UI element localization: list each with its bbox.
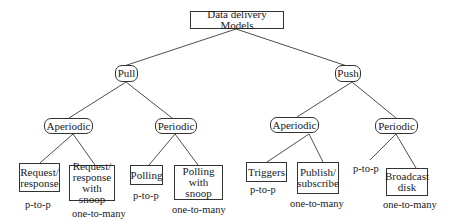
annotation-request-response-snoop: one-to-many bbox=[72, 208, 126, 219]
node-polling: Polling bbox=[130, 165, 163, 185]
node-push-periodic: Periodic bbox=[375, 118, 418, 134]
node-triggers: Triggers bbox=[246, 162, 287, 182]
annotation-publish-subscribe: one-to-many bbox=[290, 198, 344, 209]
node-broadcast-disk: Broadcast disk bbox=[386, 168, 428, 196]
annotation-triggers: p-to-p bbox=[250, 184, 276, 195]
node-push-aperiodic: Aperiodic bbox=[270, 117, 319, 133]
node-publish-subscribe: Publish/ subscribe bbox=[297, 162, 339, 194]
annotation-push-periodic-p2p: p-to-p bbox=[353, 163, 379, 174]
annotation-request-response: p-to-p bbox=[25, 199, 51, 210]
annotation-polling-snoop: one-to-many bbox=[172, 204, 226, 215]
data-delivery-models-diagram: Data delivery Models Pull Push Aperiodic… bbox=[0, 0, 455, 224]
node-polling-with-snoop: Polling with snoop bbox=[174, 165, 223, 200]
node-request-response-with-snoop: Request/ response with snoop bbox=[69, 165, 115, 201]
node-pull: Pull bbox=[115, 65, 138, 82]
node-push: Push bbox=[335, 65, 361, 82]
node-data-delivery-models: Data delivery Models bbox=[190, 11, 284, 29]
annotation-broadcast-disk: one-to-many bbox=[383, 199, 437, 210]
node-pull-aperiodic: Aperiodic bbox=[44, 118, 93, 134]
annotation-polling: p-to-p bbox=[133, 190, 159, 201]
node-pull-periodic: Periodic bbox=[155, 118, 197, 134]
node-request-response: Request/ response bbox=[19, 163, 60, 192]
